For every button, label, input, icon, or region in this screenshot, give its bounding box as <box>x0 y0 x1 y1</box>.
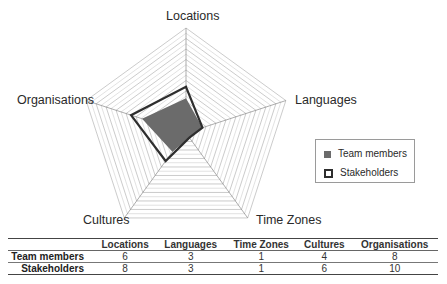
outline-square-swatch-icon <box>324 169 333 178</box>
table-cell: 8 <box>351 251 438 263</box>
table-cell: 8 <box>94 263 156 275</box>
axis-label-organisations: Organisations <box>17 93 94 107</box>
legend-label: Team members <box>338 148 407 159</box>
axis-label-time-zones: Time Zones <box>256 213 322 227</box>
table-header-row: Locations Languages Time Zones Cultures … <box>8 239 438 251</box>
table-header: Locations <box>94 239 156 251</box>
table-cell: 10 <box>351 263 438 275</box>
table-row: Stakeholders 8 3 1 6 10 <box>8 263 438 275</box>
table-header: Time Zones <box>225 239 297 251</box>
legend-item-team-members: Team members <box>324 148 407 159</box>
data-table: Locations Languages Time Zones Cultures … <box>8 238 438 275</box>
axis-label-locations: Locations <box>166 9 220 23</box>
table-cell: 1 <box>225 251 297 263</box>
table-cell: 1 <box>225 263 297 275</box>
table-header: Organisations <box>351 239 438 251</box>
table-header: Languages <box>156 239 225 251</box>
row-label: Team members <box>8 251 94 263</box>
legend-label: Stakeholders <box>340 167 398 178</box>
table-header-corner <box>8 239 94 251</box>
legend-item-stakeholders: Stakeholders <box>324 167 398 178</box>
filled-square-swatch-icon <box>324 151 331 158</box>
table-cell: 6 <box>94 251 156 263</box>
axis-label-languages: Languages <box>295 93 357 107</box>
table-cell: 3 <box>156 251 225 263</box>
radar-chart <box>0 0 447 235</box>
table-cell: 4 <box>297 251 351 263</box>
table-cell: 6 <box>297 263 351 275</box>
table-header: Cultures <box>297 239 351 251</box>
table-cell: 3 <box>156 263 225 275</box>
row-label: Stakeholders <box>8 263 94 275</box>
table-row: Team members 6 3 1 4 8 <box>8 251 438 263</box>
axis-label-cultures: Cultures <box>83 213 130 227</box>
chart-legend: Team members Stakeholders <box>315 139 415 183</box>
